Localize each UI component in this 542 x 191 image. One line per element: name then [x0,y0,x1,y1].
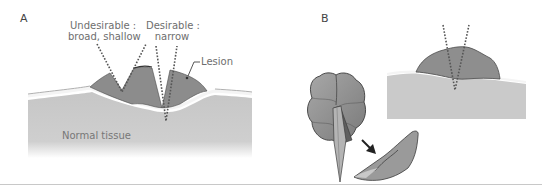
panel-b-letter: B [321,12,329,25]
undesirable-label-title: Undesirable : [70,20,135,31]
lesion-leader-line [188,62,200,76]
undesirable-label-desc: broad, shallow [68,31,138,42]
lesion-label: Lesion [201,56,233,67]
panel-a-letter: A [20,12,28,25]
figure-divider [0,184,542,185]
panel-b [308,25,527,182]
lesion-b [416,47,500,79]
desirable-label-title: Desirable : [146,20,198,31]
arrow-icon [362,140,376,154]
desirable-label-desc: narrow [146,31,198,42]
normal-tissue-label: Normal tissue [62,130,131,141]
lesion-leader-dot [186,77,189,80]
